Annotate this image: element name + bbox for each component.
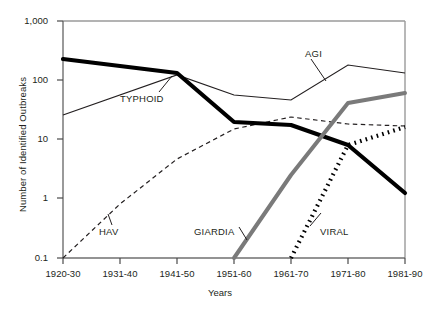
x-axis-title: Years: [0, 287, 440, 298]
series-label-hav: HAV: [99, 226, 118, 237]
y-tick-label-1: 1: [8, 192, 48, 203]
y-tick-label-100: 100: [8, 74, 48, 85]
series-line-agi: [63, 65, 405, 115]
chart-svg: [0, 0, 440, 312]
y-tick-label-1000: 1,000: [8, 15, 48, 26]
series-label-viral: VIRAL: [320, 226, 348, 237]
x-tick-label-1981-90: 1981-90: [370, 268, 440, 279]
y-tick-label-0.1: 0.1: [8, 252, 48, 263]
series-line-typhoid: [63, 59, 405, 193]
plot-frame: [63, 21, 405, 258]
series-label-giardia: GIARDIA: [194, 226, 234, 237]
y-axis-ticks: [57, 21, 63, 258]
y-tick-label-10: 10: [8, 133, 48, 144]
series-label-typhoid: TYPHOID: [120, 93, 164, 104]
series-label-agi: AGI: [305, 48, 322, 59]
annotation-leaders: [108, 59, 326, 240]
